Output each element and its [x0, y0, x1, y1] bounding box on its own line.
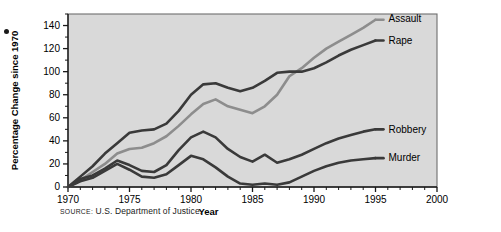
- series-label-robbery: Robbery: [389, 124, 427, 135]
- x-tick-label: 1975: [118, 194, 141, 205]
- x-tick-label: 2000: [426, 194, 449, 205]
- source-value: U.S. Department of Justice.: [96, 206, 203, 216]
- line-chart: 020406080100120140Percentage Change sinc…: [0, 0, 501, 232]
- series-label-rape: Rape: [389, 35, 413, 46]
- series-label-murder: Murder: [389, 152, 421, 163]
- x-tick-label: 1985: [241, 194, 264, 205]
- figure-container: 020406080100120140Percentage Change sinc…: [0, 0, 501, 232]
- x-tick-label: 1990: [303, 194, 326, 205]
- x-tick-label: 1995: [364, 194, 387, 205]
- y-tick-label: 60: [49, 112, 61, 123]
- y-tick-label: 100: [43, 66, 60, 77]
- y-tick-label: 20: [49, 158, 61, 169]
- y-tick-label: 140: [43, 20, 60, 31]
- x-tick-label: 1980: [180, 194, 203, 205]
- source-separator: :: [91, 208, 93, 215]
- y-tick-label: 40: [49, 135, 61, 146]
- source-label: SOURCE: [60, 208, 91, 215]
- source-note: SOURCE: U.S. Department of Justice.: [60, 206, 202, 216]
- y-tick-label: 120: [43, 43, 60, 54]
- y-tick-label: 0: [54, 181, 60, 192]
- x-tick-label: 1970: [57, 194, 80, 205]
- y-tick-label: 80: [49, 89, 61, 100]
- y-axis-label: Percentage Change since 1970: [9, 31, 20, 170]
- series-label-assault: Assault: [389, 13, 422, 24]
